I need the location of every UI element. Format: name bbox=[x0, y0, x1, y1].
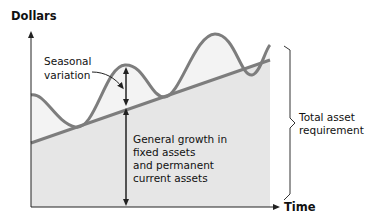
total-asset-brace bbox=[284, 46, 295, 200]
general-growth-label-2: fixed assets bbox=[133, 146, 195, 158]
general-growth-label-4: current assets bbox=[133, 172, 208, 184]
seasonal-variation-label-2: variation bbox=[44, 69, 90, 81]
total-asset-label-1: Total asset bbox=[298, 111, 355, 123]
y-axis-label: Dollars bbox=[11, 9, 57, 23]
general-growth-label-1: General growth in bbox=[133, 133, 227, 145]
seasonal-variation-label-1: Seasonal bbox=[44, 55, 91, 67]
general-growth-label-3: and permanent bbox=[133, 159, 214, 171]
total-asset-label-2: requirement bbox=[299, 124, 364, 136]
total-asset-requirement-diagram: Dollars Time Seasonal variation General … bbox=[0, 0, 375, 218]
x-axis-label: Time bbox=[284, 200, 316, 214]
